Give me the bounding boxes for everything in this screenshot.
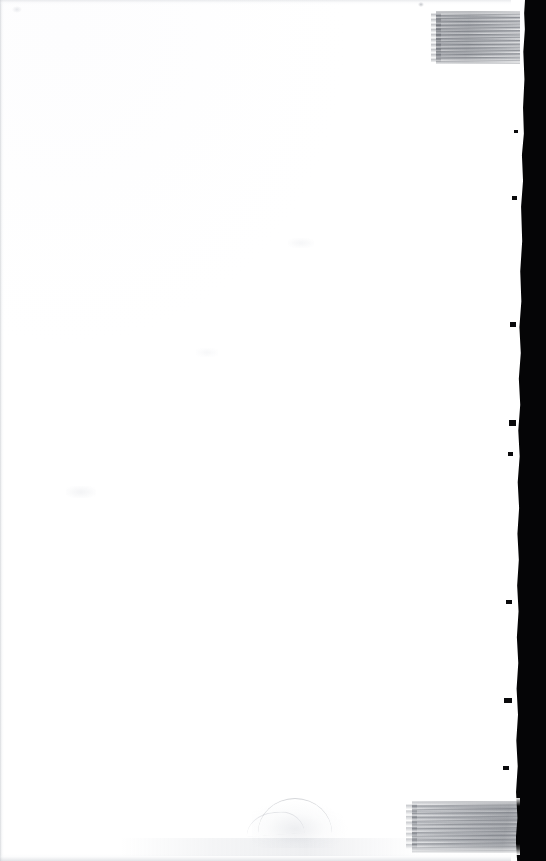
page-edge-nick-1 (514, 130, 518, 133)
page-left-edge-shadow (0, 0, 4, 861)
page-paper-surface (0, 0, 525, 861)
page-edge-nick-3 (510, 322, 516, 327)
pencil-edge-fade-top-lower (436, 57, 520, 69)
pencil-edge-fade-bottom-upper (412, 798, 520, 806)
scanned-page-canvas: Blank scanned page with pencil shading b… (0, 0, 546, 861)
page-edge-nick-8 (503, 766, 509, 770)
pencil-shading-block-top-right (436, 11, 520, 64)
pencil-shading-block-bottom-right (412, 801, 520, 853)
page-edge-nick-2 (512, 196, 517, 200)
pencil-stroke-ends-top (431, 13, 441, 62)
page-edge-nick-5 (508, 452, 513, 456)
pencil-edge-fade-bottom-lower (412, 844, 520, 855)
page-edge-nick-6 (506, 600, 512, 604)
page-edge-nick-4 (509, 420, 516, 426)
pencil-stroke-ends-bottom (406, 804, 417, 849)
page-bottom-edge-shadow (0, 854, 525, 861)
page-top-edge-shadow (0, 0, 525, 5)
pencil-edge-fade-top-upper (436, 7, 520, 16)
page-edge-nick-7 (504, 698, 512, 703)
